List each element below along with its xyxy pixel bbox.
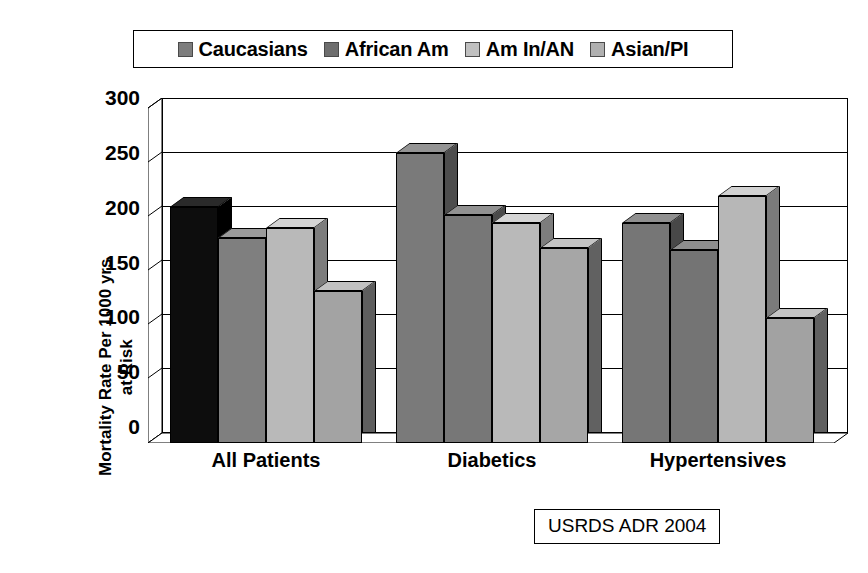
bar-front-face [492,223,540,443]
y-tick-label: 100 [105,305,140,329]
bar-front-face [170,207,218,443]
y-tick-label: 200 [105,196,140,220]
bar-diabetics-am-in-an [492,223,540,443]
legend-label: Am In/AN [486,38,574,61]
bar-front-face [670,250,718,443]
bar-side-face [588,238,602,433]
y-tick-label: 250 [105,141,140,165]
y-tick-label: 300 [105,86,140,110]
y-tick-label: 150 [105,251,140,275]
legend-swatch-icon [324,42,339,57]
legend-swatch-icon [178,42,193,57]
bar-front-face [718,196,766,443]
bar-all-patients-asian-pi [314,291,362,443]
bar-front-face [314,291,362,443]
y-tick-label: 50 [117,360,140,384]
bar-diabetics-caucasians [396,153,444,443]
bar-front-face [396,153,444,443]
y-axis-title-line1: Mortality Rate Per 1000 yrs [96,259,115,476]
bar-front-face [444,215,492,443]
bar-all-patients-caucasians [170,207,218,443]
legend-item-am-in-an: Am In/AN [465,38,574,61]
legend-swatch-icon [465,42,480,57]
legend-label: African Am [345,38,449,61]
bar-hypertensives-caucasians [622,223,670,443]
bar-front-face [540,248,588,443]
bar-side-face [362,281,376,433]
bar-hypertensives-asian-pi [766,318,814,443]
x-axis-label-all-patients: All Patients [212,449,321,472]
bar-front-face [266,228,314,443]
x-axis-label-diabetics: Diabetics [448,449,537,472]
bar-hypertensives-african-am [670,250,718,443]
bar-front-face [622,223,670,443]
bar-front-face [218,238,266,443]
y-tick-label: 0 [128,415,140,439]
bar-all-patients-african-am [218,238,266,443]
bar-hypertensives-am-in-an [718,196,766,443]
chart-legend: Caucasians African Am Am In/AN Asian/PI [133,30,733,68]
bar-all-patients-am-in-an [266,228,314,443]
bar-diabetics-asian-pi [540,248,588,443]
legend-item-asian-pi: Asian/PI [590,38,688,61]
legend-item-african-am: African Am [324,38,449,61]
legend-swatch-icon [590,42,605,57]
y-axis: Mortality Rate Per 1000 yrs at Risk 300 … [78,88,140,453]
bar-diabetics-african-am [444,215,492,443]
x-axis-label-hypertensives: Hypertensives [650,449,787,472]
bar-front-face [766,318,814,443]
legend-label: Caucasians [199,38,308,61]
legend-item-caucasians: Caucasians [178,38,308,61]
bar-side-face [814,308,828,433]
source-annotation: USRDS ADR 2004 [534,509,720,544]
gridline-250 [162,152,848,153]
gridline-300 [162,98,848,99]
legend-label: Asian/PI [611,38,688,61]
chart-plot-area [148,98,848,443]
